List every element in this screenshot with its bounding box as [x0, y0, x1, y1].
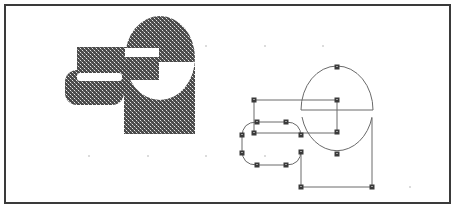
- selection-handle-center: [253, 132, 255, 133]
- selection-handle-center: [336, 66, 338, 67]
- white-bar-lower: [77, 73, 122, 81]
- selection-handle-center: [336, 153, 338, 154]
- grid-dot: [205, 155, 207, 157]
- figure-canvas: [0, 0, 453, 207]
- selection-handle-center: [253, 99, 255, 100]
- frame-border: [5, 5, 450, 203]
- selection-handle-center: [241, 134, 243, 135]
- selection-handle-center: [336, 131, 338, 132]
- selection-handle-center: [285, 121, 287, 122]
- selection-handle-center: [300, 134, 302, 135]
- outlined-shape-with-handles: [240, 65, 375, 190]
- selection-handle-center: [256, 164, 258, 165]
- filled-composite-shape: [65, 16, 195, 134]
- grid-dot: [409, 186, 411, 188]
- grid-dot: [147, 155, 149, 157]
- grid-dot: [88, 155, 90, 157]
- grid-dot: [264, 45, 266, 47]
- grid-dot: [322, 45, 324, 47]
- diagram-svg: [0, 0, 453, 207]
- white-bar-upper: [125, 48, 159, 57]
- selection-handle-center: [256, 121, 258, 122]
- filled-rect-overlap: [125, 62, 159, 80]
- selection-handle-center: [336, 99, 338, 100]
- outline-rect: [254, 100, 337, 133]
- selection-handle-center: [300, 151, 302, 152]
- selection-handle-center: [300, 186, 302, 187]
- grid-dot: [264, 155, 266, 157]
- selection-handle-center: [241, 152, 243, 153]
- selection-handle-center: [285, 164, 287, 165]
- grid-dot: [205, 45, 207, 47]
- figure-frame: [5, 5, 450, 203]
- outline-rounded-rect: [242, 122, 301, 165]
- selection-handle-center: [371, 186, 373, 187]
